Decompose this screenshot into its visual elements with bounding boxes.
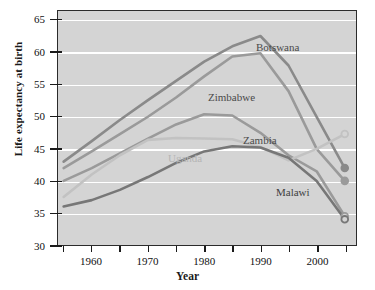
y-tick <box>50 245 62 247</box>
y-tick-label: 40 <box>15 175 45 187</box>
x-tick-label: 1970 <box>128 255 168 267</box>
x-tick <box>63 246 64 252</box>
series-label-botswana: Botswana <box>256 41 299 53</box>
x-tick-label: 1960 <box>71 255 111 267</box>
x-tick <box>232 246 233 252</box>
series-label-malawi: Malawi <box>276 186 310 198</box>
x-tick <box>148 246 149 252</box>
y-tick <box>50 19 62 21</box>
x-tick <box>204 246 205 252</box>
series-label-zimbabwe: Zimbabwe <box>208 91 255 103</box>
y-tick <box>50 181 62 183</box>
y-tick-label: 30 <box>15 240 45 252</box>
x-tick-label: 2000 <box>297 255 337 267</box>
x-axis-title: Year <box>0 270 375 282</box>
y-tick <box>50 213 62 215</box>
y-tick <box>50 51 62 53</box>
x-tick <box>176 246 177 252</box>
series-label-uganda: Uganda <box>168 152 202 164</box>
series-label-zambia: Zambia <box>243 134 277 146</box>
x-tick <box>261 246 262 252</box>
y-tick-label: 35 <box>15 207 45 219</box>
x-tick-label: 1980 <box>184 255 224 267</box>
x-tick <box>119 246 120 252</box>
y-axis-title: Life expectancy at birth <box>12 29 24 169</box>
y-tick <box>50 116 62 118</box>
y-tick-label: 65 <box>15 13 45 25</box>
x-tick <box>91 246 92 252</box>
x-tick <box>317 246 318 252</box>
x-tick <box>346 246 347 252</box>
y-tick <box>50 84 62 86</box>
x-tick <box>289 246 290 252</box>
x-tick-label: 1990 <box>241 255 281 267</box>
axes-decorations: 3035404550556065 19601970198019902000 <box>0 0 375 290</box>
y-tick <box>50 148 62 150</box>
life-expectancy-line-chart: 3035404550556065 19601970198019902000 Li… <box>0 0 375 290</box>
